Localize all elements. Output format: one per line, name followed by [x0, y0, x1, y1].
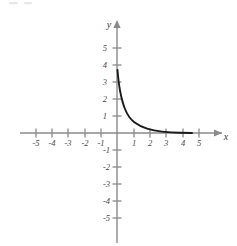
y-tick-label: 1 — [103, 111, 107, 121]
y-tick-label: 2 — [103, 94, 108, 104]
x-axis-label: x — [223, 131, 229, 142]
y-tick-label: -5 — [103, 213, 110, 223]
x-tick-label: 3 — [163, 138, 168, 148]
y-tick-label: -1 — [103, 145, 110, 155]
y-axis-arrowhead — [113, 20, 120, 28]
y-tick-label: 4 — [103, 60, 108, 70]
x-tick-label: -4 — [48, 138, 56, 148]
x-axis-arrowhead — [214, 130, 222, 137]
scan-artifact — [9, 2, 32, 4]
y-tick-label: 3 — [102, 77, 107, 87]
y-axis-label: y — [106, 19, 112, 30]
x-tick-label: -3 — [64, 138, 71, 148]
x-tick-label: 1 — [132, 138, 136, 148]
x-tick-label: -5 — [32, 138, 39, 148]
y-tick-label: -3 — [103, 179, 110, 189]
exponential-decay-curve — [118, 70, 193, 133]
cartesian-plot: -5 -4 -3 -2 -1 1 2 3 4 5 5 4 3 2 1 -1 -2… — [0, 0, 237, 246]
axes-group — [20, 20, 222, 243]
x-tick-label: 2 — [148, 138, 153, 148]
y-tick-label: 5 — [103, 43, 107, 53]
x-tick-label: 4 — [181, 138, 186, 148]
x-tick-label: -2 — [81, 138, 89, 148]
y-tick-label: -4 — [103, 196, 111, 206]
y-tick-label: -2 — [103, 162, 111, 172]
x-tick-label: 5 — [197, 138, 201, 148]
